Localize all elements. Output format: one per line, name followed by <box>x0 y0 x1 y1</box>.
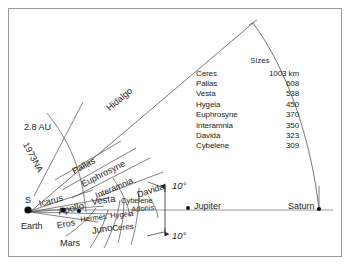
sizes-row-value: 370 <box>253 110 299 120</box>
diagram-page: Sizes Ceres 1003 km Pallas 608 Vesta 538… <box>0 0 350 269</box>
leader-line-lower-angle <box>147 232 164 236</box>
apex-tick <box>249 20 257 25</box>
label-jupiter: Jupiter <box>194 202 221 211</box>
label-distance-2-8-au: 2.8 AU <box>24 123 51 132</box>
sizes-panel-title: Sizes <box>214 56 306 65</box>
label-cybelene: Cybelene <box>121 197 153 205</box>
sizes-panel: Sizes Ceres 1003 km Pallas 608 Vesta 538… <box>196 56 306 152</box>
sizes-row-name: Cybelene <box>196 141 253 151</box>
sizes-row-value: 608 <box>253 79 299 89</box>
label-earth: Earth <box>21 222 43 231</box>
label-hygeia: Hygeia <box>110 210 134 220</box>
label-sun: S <box>25 196 31 205</box>
sizes-row: Interamnia 350 <box>196 121 306 131</box>
label-adonis: Adonis <box>131 204 155 213</box>
sizes-row-name: Hygeia <box>196 100 253 110</box>
jupiter-marker <box>186 206 190 210</box>
sizes-row: Cybelene 309 <box>196 141 306 151</box>
sizes-row: Ceres 1003 km <box>196 69 306 79</box>
sizes-row-name: Ceres <box>196 69 253 79</box>
sizes-row: Euphrosyne 370 <box>196 110 306 120</box>
label-angle-lower: 10° <box>172 231 186 241</box>
sizes-row-value: 450 <box>253 100 299 110</box>
sizes-row: Pallas 608 <box>196 79 306 89</box>
sizes-row-name: Vesta <box>196 89 253 99</box>
sizes-row-value: 350 <box>253 121 299 131</box>
label-mars: Mars <box>60 239 80 248</box>
label-angle-upper: 10° <box>172 181 186 191</box>
sun-marker <box>24 206 31 213</box>
sizes-row: Hygeia 450 <box>196 100 306 110</box>
sizes-row-value: 323 <box>253 131 299 141</box>
sizes-row-name: Interamnia <box>196 121 253 131</box>
sizes-row-name: Euphrosyne <box>196 110 253 120</box>
sizes-row-value: 309 <box>253 141 299 151</box>
sizes-row-value: 1003 km <box>253 69 299 79</box>
sizes-row-name: Pallas <box>196 79 253 89</box>
sizes-row-value: 538 <box>253 89 299 99</box>
sizes-row: Vesta 538 <box>196 89 306 99</box>
sizes-row-name: Davida <box>196 131 253 141</box>
sizes-row: Davida 323 <box>196 131 306 141</box>
saturn-marker <box>317 207 321 211</box>
label-saturn: Saturn <box>288 202 315 211</box>
